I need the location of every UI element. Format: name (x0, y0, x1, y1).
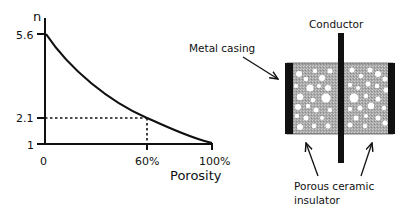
x-tick-label-0: 0 (40, 155, 47, 168)
y-tick-label-2.1: 2.1 (16, 112, 34, 125)
insulator-label-line2: insulator (294, 194, 341, 206)
casing-label: Metal casing (189, 42, 255, 54)
figure: n 5.6 2.1 1 0 60% 100% Porosity (0, 0, 408, 213)
insulator-arrow-right (361, 143, 372, 176)
metal-casing-left (285, 63, 293, 134)
n-curve (46, 34, 212, 143)
insulator-label-line1: Porous ceramic (294, 180, 374, 192)
y-axis-label: n (33, 9, 41, 24)
x-tick-label-100: 100% (199, 155, 230, 168)
conductor-label: Conductor (309, 18, 364, 30)
metal-casing-right (388, 63, 395, 134)
x-tick-label-60: 60% (135, 155, 159, 168)
insulator-arrow-left (306, 143, 318, 176)
y-tick-label-5.6: 5.6 (16, 29, 34, 42)
x-axis-label: Porosity (170, 168, 222, 183)
y-tick-label-1: 1 (27, 139, 34, 152)
porosity-graph: n 5.6 2.1 1 0 60% 100% Porosity (16, 9, 230, 183)
conductor-rod (338, 33, 344, 163)
casing-arrow (243, 57, 278, 79)
